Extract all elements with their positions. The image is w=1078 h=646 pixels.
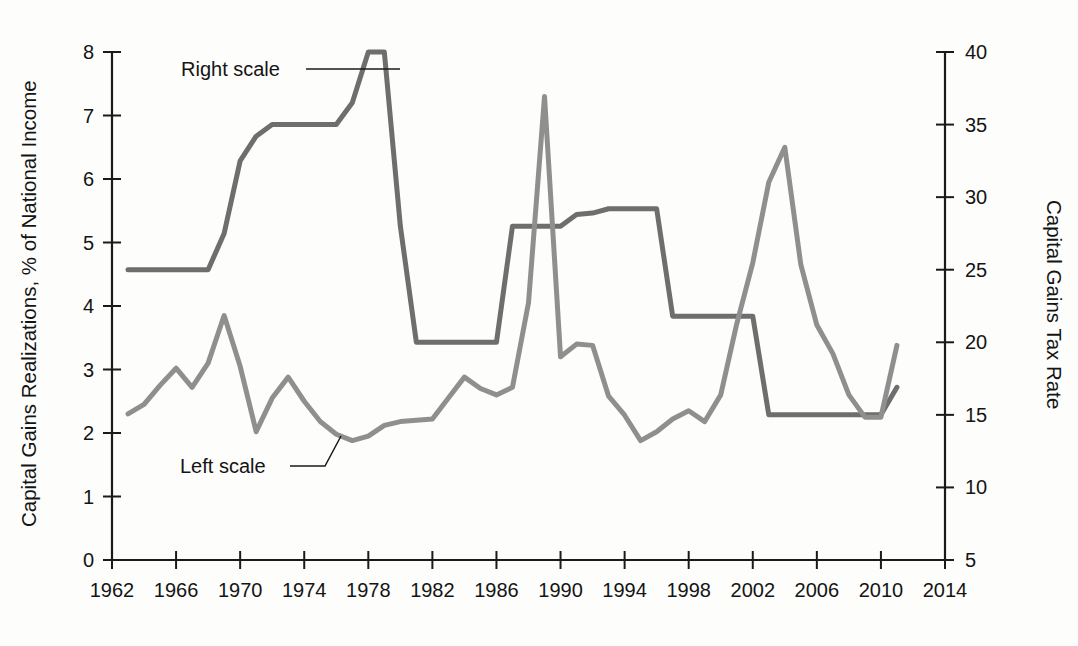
x-tick-label: 1966 — [154, 579, 199, 601]
right-tick-label: 10 — [965, 476, 987, 498]
x-tick-label: 1962 — [90, 579, 135, 601]
left-tick-label: 4 — [83, 295, 94, 317]
x-tick-label: 1978 — [346, 579, 391, 601]
x-tick-label: 1990 — [538, 579, 583, 601]
left-tick-label: 6 — [83, 168, 94, 190]
left-tick-label: 2 — [83, 422, 94, 444]
series-line-capital-gains-realizations — [128, 96, 897, 440]
series-line-capital-gains-tax-rate — [128, 52, 897, 415]
x-tick-label: 1974 — [282, 579, 327, 601]
x-tick-label: 1998 — [666, 579, 711, 601]
left-tick-label: 5 — [83, 232, 94, 254]
right-tick-label: 30 — [965, 186, 987, 208]
right-tick-label: 15 — [965, 404, 987, 426]
x-tick-label: 2014 — [923, 579, 968, 601]
right-axis-ticks: 510152025303540 — [936, 41, 987, 571]
right-tick-label: 5 — [965, 549, 976, 571]
x-tick-label: 2002 — [731, 579, 776, 601]
right-tick-label: 20 — [965, 331, 987, 353]
right-tick-label: 25 — [965, 259, 987, 281]
x-tick-label: 1982 — [410, 579, 455, 601]
left-tick-label: 3 — [83, 359, 94, 381]
x-tick-label: 2006 — [795, 579, 840, 601]
chart-figure: 012345678 510152025303540 19621966197019… — [0, 0, 1078, 646]
left-axis-title: Capital Gains Realizations, % of Nationa… — [17, 80, 40, 527]
right-axis-title: Capital Gains Tax Rate — [1043, 200, 1066, 409]
x-tick-label: 1994 — [602, 579, 647, 601]
left-tick-label: 7 — [83, 105, 94, 127]
annotation-left-scale: Left scale — [180, 436, 341, 477]
right-tick-label: 40 — [965, 41, 987, 63]
x-tick-label: 2010 — [859, 579, 904, 601]
left-axis-ticks: 012345678 — [83, 41, 121, 571]
dual-axis-line-chart: 012345678 510152025303540 19621966197019… — [0, 0, 1078, 646]
chart-page: 012345678 510152025303540 19621966197019… — [0, 0, 1078, 646]
left-tick-label: 8 — [83, 41, 94, 63]
right-tick-label: 35 — [965, 114, 987, 136]
x-tick-label: 1970 — [218, 579, 263, 601]
right-scale-annotation-label: Right scale — [181, 58, 280, 80]
left-scale-annotation-label: Left scale — [180, 455, 266, 477]
left-scale-leader-line — [290, 436, 341, 466]
x-tick-label: 1986 — [474, 579, 519, 601]
left-tick-label: 1 — [83, 486, 94, 508]
x-axis-ticks: 1962196619701974197819821986199019941998… — [90, 551, 968, 601]
left-tick-label: 0 — [83, 549, 94, 571]
series-group — [128, 52, 897, 441]
